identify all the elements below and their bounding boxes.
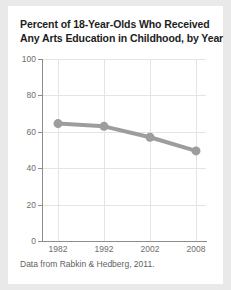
x-tick-label: 1982: [49, 245, 68, 254]
data-point-marker: [54, 119, 63, 128]
y-tick-label: 80: [27, 91, 36, 100]
y-tick-label: 20: [27, 200, 36, 209]
data-point-marker: [100, 122, 109, 131]
chart-title-line-2: Any Arts Education in Childhood, by Year: [20, 31, 216, 45]
series-line: [58, 124, 196, 151]
data-point-marker: [192, 146, 201, 155]
y-tick-label: 40: [27, 164, 36, 173]
chart-title: Percent of 18-Year-Olds Who Received Any…: [20, 17, 216, 45]
x-tick-label: 2002: [141, 245, 160, 254]
data-point-marker: [146, 133, 155, 142]
x-axis-line: [42, 241, 207, 242]
data-series-line: [42, 59, 206, 241]
x-tick-label: 1992: [95, 245, 114, 254]
chart-figure: Percent of 18-Year-Olds Who Received Any…: [8, 6, 223, 284]
y-tick-label: 60: [27, 128, 36, 137]
chart-title-line-1: Percent of 18-Year-Olds Who Received: [20, 17, 216, 31]
y-tick-label: 0: [31, 237, 36, 246]
plot-wrapper: 020406080100 1982199220022008: [8, 50, 223, 250]
y-tick-label: 100: [22, 55, 36, 64]
plot-area: 020406080100 1982199220022008: [42, 59, 206, 241]
chart-caption: Data from Rabkin & Hedberg, 2011.: [20, 259, 155, 269]
x-tick-label: 2008: [187, 245, 206, 254]
